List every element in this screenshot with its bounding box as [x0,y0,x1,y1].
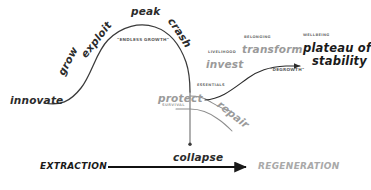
stage-label-innovate: innovate [10,95,63,106]
stage-label-plateau-line2: stability [312,56,367,68]
collapse-endpoint-dot [188,143,191,146]
stage-label-protect: protect [158,93,203,104]
caption-repair-essentials: ESSENTIALS [197,84,225,88]
caption-invest-livelihood: LIVELIHOOD [208,51,236,55]
slogan-endless-growth: "ENDLESS GROWTH" [117,38,169,42]
stage-label-plateau-line1: plateau of [303,43,371,55]
axis-label-regeneration: REGENERATION [258,162,340,171]
axis-label-extraction: EXTRACTION [40,162,107,171]
caption-plateau-wellbeing: WELLBEING [303,34,330,38]
stage-label-transform: transform [242,44,303,55]
stage-label-invest: invest [206,59,244,70]
caption-protect-survival: SURVIVAL [162,104,185,108]
slogan-degrowth: "DEGROWTH" [270,68,304,72]
stage-label-collapse: collapse [173,152,223,163]
caption-transform-belonging: BELONGING [244,36,271,40]
stage-label-peak: peak [131,6,161,17]
